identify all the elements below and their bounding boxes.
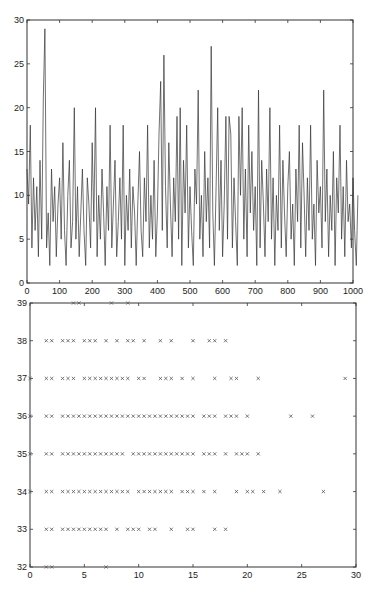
x-marker xyxy=(202,452,205,455)
x-marker xyxy=(170,490,173,493)
axes-frame xyxy=(30,303,356,567)
x-marker xyxy=(99,415,102,418)
x-marker xyxy=(115,339,118,342)
x-marker xyxy=(246,415,249,418)
x-marker xyxy=(132,528,135,531)
x-marker xyxy=(143,339,146,342)
y-tick-label: 39 xyxy=(17,298,27,308)
x-marker xyxy=(262,490,265,493)
x-marker xyxy=(121,415,124,418)
x-marker xyxy=(72,452,75,455)
x-marker xyxy=(94,452,97,455)
x-marker xyxy=(50,528,53,531)
x-marker xyxy=(153,528,156,531)
x-marker xyxy=(61,339,64,342)
x-tick-label: 25 xyxy=(297,570,307,580)
x-marker xyxy=(148,528,151,531)
x-marker xyxy=(99,528,102,531)
x-marker xyxy=(246,452,249,455)
x-marker xyxy=(132,452,135,455)
x-marker xyxy=(61,377,64,380)
x-marker xyxy=(181,415,184,418)
x-marker xyxy=(77,490,80,493)
y-tick-label: 15 xyxy=(14,147,24,157)
x-marker xyxy=(121,377,124,380)
x-marker xyxy=(148,490,151,493)
x-marker xyxy=(88,452,91,455)
x-marker xyxy=(50,339,53,342)
x-marker xyxy=(126,490,129,493)
x-tick-label: 1000 xyxy=(343,286,363,296)
x-marker xyxy=(344,377,347,380)
x-marker xyxy=(191,377,194,380)
y-tick-label: 33 xyxy=(17,524,27,534)
x-marker xyxy=(66,452,69,455)
y-tick-label: 0 xyxy=(19,278,24,288)
x-marker xyxy=(229,415,232,418)
x-marker xyxy=(191,339,194,342)
x-marker xyxy=(83,490,86,493)
x-marker xyxy=(246,490,249,493)
figure: 0100200300400500600700800900100005101520… xyxy=(0,0,374,592)
x-marker xyxy=(72,490,75,493)
y-tick-label: 36 xyxy=(17,411,27,421)
x-marker xyxy=(110,415,113,418)
y-tick-label: 34 xyxy=(17,487,27,497)
x-marker xyxy=(77,528,80,531)
x-marker xyxy=(104,528,107,531)
x-marker xyxy=(289,415,292,418)
x-tick-label: 400 xyxy=(150,286,165,296)
line-plot: 0100200300400500600700800900100005101520… xyxy=(14,15,363,296)
x-marker xyxy=(45,377,48,380)
x-marker xyxy=(115,528,118,531)
x-marker xyxy=(88,490,91,493)
x-marker xyxy=(137,415,140,418)
x-marker xyxy=(186,490,189,493)
x-marker xyxy=(202,415,205,418)
x-marker xyxy=(202,490,205,493)
x-marker xyxy=(191,528,194,531)
x-marker xyxy=(143,452,146,455)
x-marker xyxy=(191,490,194,493)
x-marker xyxy=(257,377,260,380)
x-marker xyxy=(77,452,80,455)
x-tick-label: 15 xyxy=(188,570,198,580)
x-marker xyxy=(235,377,238,380)
x-marker xyxy=(208,339,211,342)
y-tick-label: 38 xyxy=(17,336,27,346)
x-marker xyxy=(137,377,140,380)
x-marker xyxy=(66,490,69,493)
x-marker xyxy=(94,415,97,418)
x-marker xyxy=(159,339,162,342)
x-marker xyxy=(170,415,173,418)
scatter-plot: 0510152025303233343536373839 xyxy=(17,298,361,580)
x-marker xyxy=(132,339,135,342)
x-tick-label: 5 xyxy=(82,570,87,580)
x-tick-label: 700 xyxy=(248,286,263,296)
x-marker xyxy=(235,452,238,455)
x-marker xyxy=(121,452,124,455)
x-marker xyxy=(170,339,173,342)
x-marker xyxy=(164,415,167,418)
x-marker xyxy=(181,377,184,380)
x-marker xyxy=(143,415,146,418)
x-marker xyxy=(126,528,129,531)
x-marker xyxy=(45,339,48,342)
x-marker xyxy=(66,415,69,418)
x-marker xyxy=(126,377,129,380)
x-marker xyxy=(278,490,281,493)
x-marker xyxy=(88,528,91,531)
x-marker xyxy=(186,452,189,455)
x-marker xyxy=(104,452,107,455)
x-marker xyxy=(104,490,107,493)
x-marker xyxy=(159,452,162,455)
x-marker xyxy=(83,339,86,342)
x-marker xyxy=(159,415,162,418)
x-tick-label: 200 xyxy=(85,286,100,296)
x-tick-label: 900 xyxy=(313,286,328,296)
x-marker xyxy=(224,452,227,455)
x-marker xyxy=(45,452,48,455)
x-marker xyxy=(61,490,64,493)
x-marker xyxy=(170,452,173,455)
x-marker xyxy=(61,415,64,418)
